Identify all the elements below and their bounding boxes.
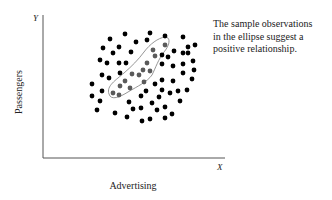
data-point <box>129 50 134 55</box>
data-points <box>90 31 198 124</box>
data-point <box>166 55 171 60</box>
data-point <box>125 115 130 120</box>
data-point <box>163 105 168 110</box>
ellipse-data-point <box>111 91 116 96</box>
data-point <box>95 108 100 113</box>
data-point <box>123 32 128 37</box>
data-point <box>186 51 191 56</box>
data-point <box>191 59 196 64</box>
data-point <box>176 89 181 94</box>
data-point <box>181 35 186 40</box>
data-point <box>170 112 175 117</box>
data-point <box>127 100 132 105</box>
annotation-line-3: positive relationship. <box>213 43 331 56</box>
data-point <box>168 91 173 96</box>
data-point <box>100 73 105 78</box>
data-point <box>178 99 183 104</box>
ellipse-data-point <box>163 43 168 48</box>
data-point <box>111 51 116 56</box>
data-point <box>192 68 197 73</box>
data-point <box>148 31 153 36</box>
data-point <box>107 76 112 81</box>
data-point <box>117 61 122 66</box>
data-point <box>153 82 158 87</box>
annotation-line-2: in the ellipse suggest a <box>213 31 331 44</box>
data-point <box>117 45 122 50</box>
ellipse-data-point <box>123 79 128 84</box>
x-axis-letter: X <box>216 162 223 172</box>
ellipse-data-point <box>151 48 156 53</box>
data-point <box>139 106 144 111</box>
data-point <box>157 95 162 100</box>
data-point <box>163 34 168 39</box>
data-point <box>139 94 144 99</box>
data-point <box>105 61 110 66</box>
data-point <box>140 119 145 124</box>
ellipse-data-point <box>118 84 123 89</box>
data-point <box>144 89 149 94</box>
data-point <box>181 71 186 76</box>
data-point <box>145 38 150 43</box>
data-point <box>160 88 165 93</box>
data-point <box>131 107 136 112</box>
data-point <box>160 53 165 58</box>
ellipse-data-point <box>128 86 133 91</box>
x-axis-label: Advertising <box>109 180 156 191</box>
annotation-text: The sample observations in the ellipse s… <box>213 18 331 56</box>
data-point <box>181 62 186 67</box>
data-point <box>101 46 106 51</box>
ellipse-data-point <box>145 61 150 66</box>
data-point <box>118 71 123 76</box>
data-point <box>163 116 168 121</box>
data-point <box>90 94 95 99</box>
data-point <box>100 89 105 94</box>
data-point <box>108 37 113 42</box>
data-point <box>171 79 176 84</box>
annotation-line-1: The sample observations <box>213 18 331 31</box>
data-point <box>193 43 198 48</box>
data-point <box>186 45 191 50</box>
ellipse-data-point <box>153 54 158 59</box>
ellipse-data-point <box>141 68 146 73</box>
ellipse-data-point <box>142 80 147 85</box>
data-point <box>98 58 103 63</box>
data-point <box>185 88 190 93</box>
data-point <box>171 64 176 69</box>
data-point <box>150 101 155 106</box>
data-point <box>113 111 118 116</box>
ellipse-data-point <box>117 93 122 98</box>
data-point <box>160 62 165 67</box>
ellipse-data-point <box>130 72 135 77</box>
data-point <box>181 51 186 56</box>
data-point <box>124 61 129 66</box>
data-point <box>160 78 165 83</box>
data-point <box>90 82 95 87</box>
data-point <box>155 108 160 113</box>
data-point <box>148 117 153 122</box>
data-point <box>172 49 177 54</box>
ellipse-data-point <box>148 69 153 74</box>
y-axis-letter: Y <box>33 13 39 23</box>
y-axis-label: Passengers <box>13 70 24 114</box>
ellipse-data-point <box>137 73 142 78</box>
data-point <box>190 77 195 82</box>
data-point <box>98 99 103 104</box>
data-point <box>134 40 139 45</box>
